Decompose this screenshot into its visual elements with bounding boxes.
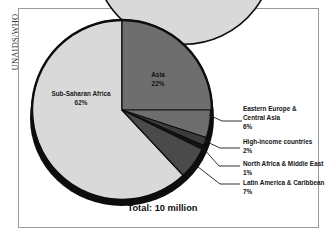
callout-north-africa-name: North Africa & Middle East	[243, 160, 323, 167]
leader-line-north-africa	[203, 148, 240, 166]
callout-north-africa-value: 1%	[243, 169, 252, 176]
callout-eastern-europe-value: 6%	[243, 123, 252, 130]
callout-eastern-europe-line2: Central Asia	[243, 114, 280, 121]
callout-high-income-value: 2%	[243, 147, 252, 154]
callout-north-africa-middle-east: North Africa & Middle East 1%	[243, 160, 323, 178]
callout-high-income-countries: High-income countries 2%	[243, 138, 312, 156]
callout-eastern-europe-central-asia: Eastern Europe & Central Asia 6%	[243, 105, 297, 131]
callout-eastern-europe-line1: Eastern Europe &	[243, 105, 297, 112]
slice-label-sub-saharan-africa: Sub-Saharan Africa 62%	[38, 90, 124, 107]
slice-label-asia-name: Asia	[151, 71, 165, 78]
slice-label-asia-value: 22%	[152, 80, 165, 87]
chart-total-label: Total: 10 million	[0, 203, 325, 213]
callout-latin-america-name: Latin America & Caribbean	[243, 179, 324, 186]
slice-label-sub-saharan-africa-value: 62%	[75, 99, 88, 106]
callout-high-income-name: High-income countries	[243, 138, 312, 145]
callout-latin-america-value: 7%	[243, 188, 252, 195]
callout-latin-america-caribbean: Latin America & Caribbean 7%	[243, 179, 324, 197]
slice-label-asia: Asia 22%	[137, 71, 179, 88]
pie-chart-screenshot: UNAIDS/WHO Sub-Saharan Africa 62%	[0, 0, 325, 240]
slice-label-sub-saharan-africa-name: Sub-Saharan Africa	[51, 90, 110, 97]
